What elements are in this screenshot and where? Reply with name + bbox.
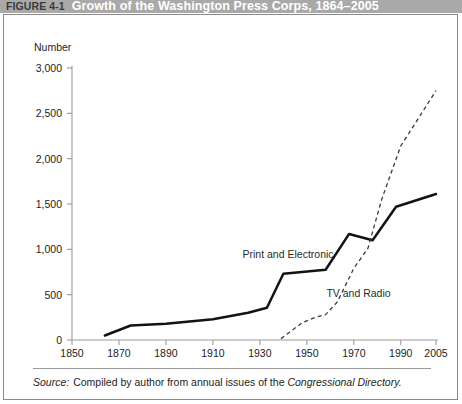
chart-series-labels: Print and ElectronicTV and Radio bbox=[243, 248, 391, 299]
y-tick-label: 1,500 bbox=[36, 198, 62, 210]
source-description: Compiled by author from annual issues of… bbox=[73, 376, 284, 388]
y-tick-label: 3,000 bbox=[36, 62, 62, 74]
x-tick-label: 1890 bbox=[154, 347, 178, 359]
line-chart: 05001,0001,5002,0002,5003,000Number18501… bbox=[0, 0, 462, 360]
x-tick-label: 1990 bbox=[389, 347, 413, 359]
x-tick-label: 1950 bbox=[295, 347, 319, 359]
source-divider bbox=[33, 368, 431, 369]
y-tick-label: 2,500 bbox=[36, 107, 62, 119]
y-tick-label: 0 bbox=[56, 334, 62, 346]
y-tick-label: 1,000 bbox=[36, 243, 62, 255]
series-label: Print and Electronic bbox=[243, 248, 334, 260]
figure-container: FIGURE 4-1Growth of the Washington Press… bbox=[0, 0, 462, 404]
series-label: TV and Radio bbox=[326, 287, 390, 299]
x-tick-label: 1910 bbox=[201, 347, 225, 359]
y-tick-label: 500 bbox=[44, 289, 62, 301]
source-note: Source:Compiled by author from annual is… bbox=[33, 376, 437, 388]
chart-series bbox=[105, 91, 436, 339]
source-publication: Congressional Directory. bbox=[287, 376, 401, 388]
series-line bbox=[281, 91, 436, 339]
x-tick-label: 2005 bbox=[424, 347, 448, 359]
source-label: Source: bbox=[33, 376, 69, 388]
x-tick-label: 1970 bbox=[342, 347, 366, 359]
x-tick-label: 1870 bbox=[107, 347, 131, 359]
x-tick-label: 1930 bbox=[248, 347, 272, 359]
y-axis-title: Number bbox=[34, 41, 72, 53]
chart-axes: 05001,0001,5002,0002,5003,000Number18501… bbox=[34, 41, 448, 359]
x-tick-label: 1850 bbox=[60, 347, 84, 359]
y-tick-label: 2,000 bbox=[36, 153, 62, 165]
series-line bbox=[105, 194, 436, 335]
